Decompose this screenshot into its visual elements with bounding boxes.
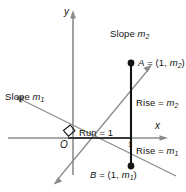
point-b-symbol: m — [122, 169, 130, 180]
rise-m2-subscript: 2 — [175, 102, 179, 109]
slope-m1-label: Slope m1 — [5, 92, 44, 102]
slope-diagram: y x O 1 Slope m2 Slope m1 A = (1, m2) Ri… — [0, 0, 186, 192]
point-a-marker — [128, 60, 135, 67]
slope-m2-symbol: m — [138, 28, 146, 39]
slope-m2-text: Slope — [110, 28, 138, 39]
x-axis-label: x — [155, 121, 160, 131]
rise-m2-symbol: m — [167, 97, 175, 108]
point-b-eq: = (1, — [96, 169, 121, 180]
rise-m1-label: Rise = m1 — [136, 146, 178, 156]
point-a-suffix: ) — [182, 57, 185, 68]
rise-m2-label: Rise = m2 — [136, 98, 178, 108]
point-a-symbol: m — [170, 57, 178, 68]
point-b-suffix: ) — [134, 169, 137, 180]
origin-label: O — [60, 140, 68, 150]
point-b-subscript: 1 — [130, 174, 134, 181]
y-axis — [70, 10, 76, 175]
point-a-label: A = (1, m2) — [138, 58, 185, 68]
slope-m2-subscript: 2 — [146, 33, 150, 40]
rise-m1-symbol: m — [167, 145, 175, 156]
slope-m1-symbol: m — [33, 91, 41, 102]
rise-m1-subscript: 1 — [175, 150, 179, 157]
point-b-label: B = (1, m1) — [90, 170, 137, 180]
rise-m2-text: Rise = — [136, 97, 167, 108]
y-axis-label: y — [64, 7, 69, 17]
slope-m1-subscript: 1 — [41, 96, 45, 103]
slope-m1-text: Slope — [5, 91, 33, 102]
run-label: Run = 1 — [79, 128, 113, 138]
line-slope-m2 — [54, 65, 153, 185]
rise-m1-text: Rise = — [136, 145, 167, 156]
slope-m2-label: Slope m2 — [110, 29, 149, 39]
point-a-eq: = (1, — [144, 57, 169, 68]
x-tick-label-1: 1 — [128, 141, 132, 149]
point-a-subscript: 2 — [178, 62, 182, 69]
